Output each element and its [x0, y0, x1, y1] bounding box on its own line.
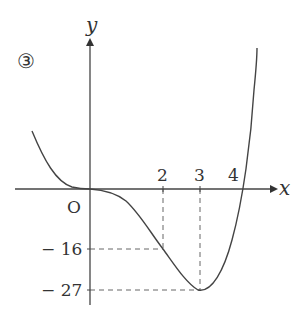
- x-axis-label: x: [279, 176, 290, 200]
- guide-lines: [90, 189, 200, 290]
- x-tick-label-3: 3: [194, 165, 205, 185]
- y-tick-label-neg27: − 27: [41, 280, 82, 300]
- x-tick-label-2: 2: [157, 165, 168, 185]
- figure-marker: ③: [17, 49, 35, 73]
- x-tick-label-4: 4: [228, 165, 239, 185]
- tick-marks: [87, 186, 200, 290]
- origin-label: O: [67, 197, 81, 217]
- y-tick-label-neg16: − 16: [41, 239, 82, 259]
- y-axis-label: y: [85, 13, 98, 37]
- function-graph: ③ y x O 2 3 4 − 16 − 27: [0, 0, 301, 321]
